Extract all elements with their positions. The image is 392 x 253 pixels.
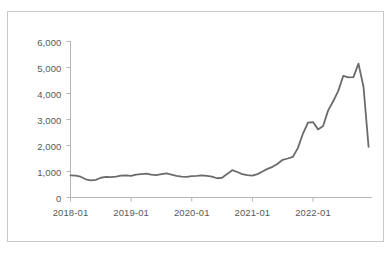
y-axis-tick-label: 4,000 — [0, 88, 62, 99]
x-axis-tick-label: 2022-01 — [295, 207, 331, 218]
x-axis-tick-label: 2020-01 — [174, 207, 210, 218]
y-axis-tick-label: 3,000 — [0, 114, 62, 125]
y-axis-tick-label: 2,000 — [0, 140, 62, 151]
x-axis-tick-label: 2021-01 — [235, 207, 271, 218]
x-axis-tick-label: 2018-01 — [53, 207, 89, 218]
chart-figure: 01,0002,0003,0004,0005,0006,000 2018-012… — [0, 0, 392, 253]
y-axis-tick-label: 6,000 — [0, 36, 62, 47]
x-axis-ticks — [71, 198, 314, 202]
y-axis-tick-label: 1,000 — [0, 166, 62, 177]
data-series-line — [71, 64, 369, 181]
y-axis-tick-label: 0 — [0, 192, 62, 203]
y-axis-tick-label: 5,000 — [0, 62, 62, 73]
x-axis-tick-label: 2019-01 — [113, 207, 149, 218]
y-axis-ticks — [67, 42, 71, 198]
